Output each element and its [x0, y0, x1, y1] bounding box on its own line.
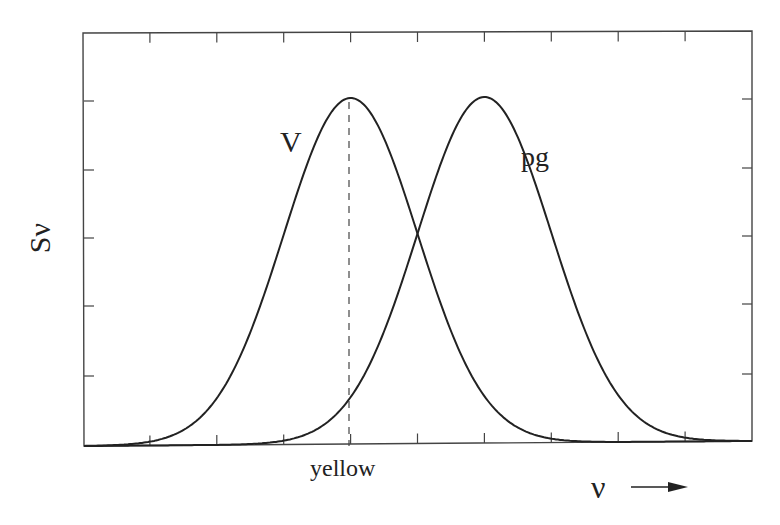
- spectral-response-chart: V pg yellow ν Sν: [0, 0, 780, 525]
- x-axis-label: ν: [591, 469, 605, 505]
- y-axis-label: Sν: [23, 223, 56, 253]
- series-pg-curve: [84, 97, 752, 446]
- x-axis-arrow-icon: [631, 482, 688, 492]
- yellow-label: yellow: [310, 455, 376, 481]
- left-ticks: [84, 101, 94, 376]
- right-ticks: [742, 99, 752, 374]
- bottom-ticks: [150, 432, 685, 446]
- series-pg-label: pg: [521, 141, 549, 172]
- plot-frame: [83, 31, 752, 446]
- series-v-curve: [84, 98, 752, 446]
- series-v-label: V: [280, 125, 302, 158]
